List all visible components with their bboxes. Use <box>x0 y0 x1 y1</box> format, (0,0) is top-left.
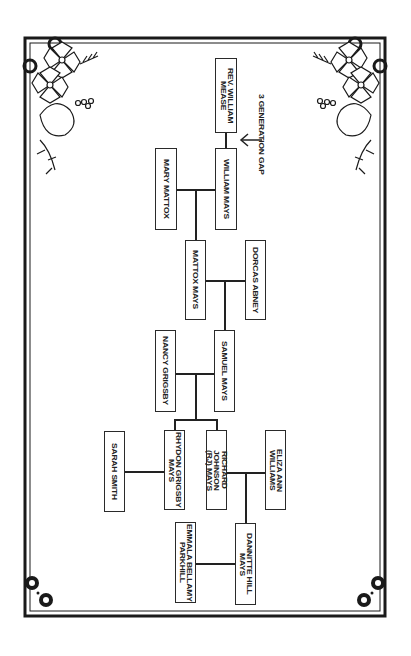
connector-line <box>224 280 226 330</box>
person-box-william-mays: WILLIAM MAYS <box>215 148 237 230</box>
generation-gap-label: 3 GENERATION GAP <box>258 94 267 175</box>
floral-corner-top-left-icon <box>30 42 98 174</box>
person-name: NANCY GRIGSBY <box>162 336 169 405</box>
floral-corner-top-right-icon <box>313 42 379 174</box>
person-box-eliza-ann-williams: ELIZA ANN WILLIAMS <box>265 430 286 510</box>
connector-line <box>195 189 197 240</box>
person-box-emmala-bellamy-parkhill: EMMALA BELLAMY PARKHILL <box>175 522 196 603</box>
person-box-rev-william-mease: REV. WILLIAM MEASE <box>215 58 237 133</box>
person-name: WILLIAM MAYS <box>222 159 229 219</box>
connector-line <box>206 280 245 282</box>
connector-line <box>174 419 217 421</box>
connector-line <box>225 133 227 148</box>
person-box-mary-mattox: MARY MATTOX <box>155 148 177 230</box>
person-box-nancy-grigsby: NANCY GRIGSBY <box>155 330 176 412</box>
connector-line <box>195 373 197 420</box>
connector-line <box>196 563 235 565</box>
person-name: ELIZA ANN WILLIAMS <box>268 449 282 492</box>
person-box-sarah-smith: SARAH SMITH <box>104 431 125 512</box>
person-name: RICHARD JOHNSON (RJ) MAYS <box>206 431 228 509</box>
person-name: MARY MATTOX <box>162 159 169 219</box>
person-box-dannitte-hill-mays: DANNITTE HILL MAYS <box>235 523 256 605</box>
person-box-samuel-mays: SAMUEL MAYS <box>214 330 235 412</box>
person-name: SARAH SMITH <box>111 443 118 500</box>
person-name: REV. WILLIAM MEASE <box>219 68 233 123</box>
connector-line <box>174 419 176 430</box>
person-box-dorcas-abney: DORCAS ABNEY <box>245 240 266 320</box>
person-box-mattox-mays: MATTOX MAYS <box>185 240 206 320</box>
person-name: DORCAS ABNEY <box>252 247 259 313</box>
person-name: SAMUEL MAYS <box>221 341 228 401</box>
person-name: EMMALA BELLAMY PARKHILL <box>178 524 192 602</box>
connector-line <box>245 472 247 523</box>
decorative-frame <box>0 0 411 656</box>
connector-line <box>216 419 218 430</box>
person-name: RHYDON GRIGSBY MAYS <box>167 432 181 508</box>
person-box-richard-johnson-mays: RICHARD JOHNSON (RJ) MAYS <box>206 430 227 510</box>
person-name: DANNITTE HILL MAYS <box>238 533 252 595</box>
scroll-corner-icon <box>24 38 386 607</box>
person-name: MATTOX MAYS <box>192 250 199 309</box>
connector-line <box>125 471 164 473</box>
person-box-rhydon-grigsby-mays: RHYDON GRIGSBY MAYS <box>164 430 185 510</box>
